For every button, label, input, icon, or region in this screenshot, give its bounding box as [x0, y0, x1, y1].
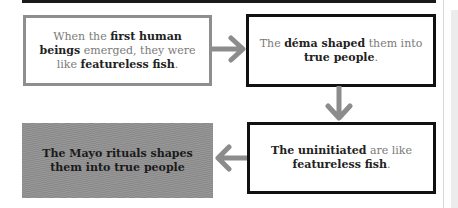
side-panel [451, 10, 458, 208]
divider-line [443, 0, 444, 208]
box-dema-shaped: The déma shaped them into true people. [246, 14, 436, 87]
box-mayo-rituals: The Mayo rituals shapes them into true p… [22, 123, 213, 198]
arrow-left-icon [214, 142, 248, 174]
box-uninitiated: The uninitiated are like featureless fis… [247, 122, 436, 194]
box-first-humans-text: When the first human beings emerged, the… [36, 30, 199, 72]
box-uninitiated-text: The uninitiated are like featureless fis… [260, 144, 423, 172]
arrow-down-icon [324, 86, 354, 123]
arrow-right-icon [212, 33, 248, 65]
top-rule [22, 0, 436, 3]
box-mayo-rituals-text: The Mayo rituals shapes them into true p… [32, 147, 203, 175]
box-first-humans: When the first human beings emerged, the… [23, 15, 212, 86]
box-dema-shaped-text: The déma shaped them into true people. [259, 37, 423, 65]
